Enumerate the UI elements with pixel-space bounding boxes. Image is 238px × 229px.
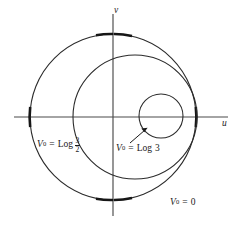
inner-circle-curve: [139, 94, 183, 138]
outer-label-equals: =: [179, 198, 190, 208]
figure-canvas: [0, 0, 238, 229]
inner-label-equals: =: [125, 144, 136, 154]
outer-circle-accent-bottom-left: [96, 199, 113, 200]
outer-label-value: 0: [191, 198, 196, 208]
inner-label-value: 3: [152, 144, 160, 154]
middle-label-fraction: 3 2: [75, 137, 80, 154]
u-axis-label: u: [222, 119, 227, 129]
inner-circle-label: V0 = Log 3: [116, 144, 160, 154]
outer-circle-accent-bottom-right: [114, 198, 132, 200]
equipotential-circles-figure: v u V0 = Log 3 2 V0 = Log 3 V0 = 0: [0, 0, 238, 229]
outer-circle-accent-top-left: [96, 34, 113, 35]
outer-circle-label: V0 = 0: [170, 198, 195, 208]
middle-label-numerator: 3: [76, 137, 80, 145]
middle-circle-label: V0 = Log 3 2: [37, 136, 80, 153]
inner-circle-leader-line: [130, 130, 145, 143]
outer-circle-accent-left: [30, 107, 31, 127]
middle-label-denominator: 2: [76, 146, 80, 154]
middle-label-function: Log: [58, 140, 73, 150]
v-axis-label: v: [114, 6, 118, 16]
middle-label-equals: =: [46, 140, 57, 150]
outer-circle-accent-top-right: [114, 34, 132, 36]
inner-label-function: Log: [137, 144, 152, 154]
